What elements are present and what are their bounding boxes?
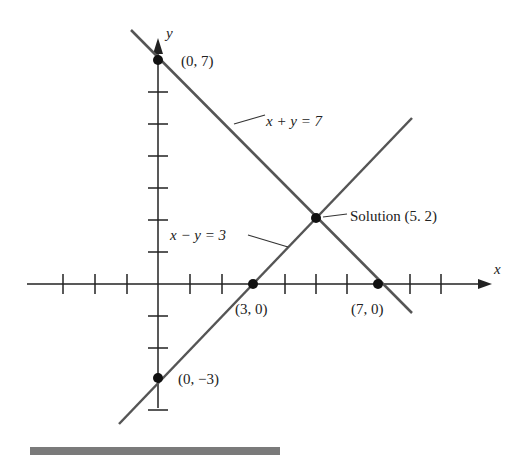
x-axis-label: x [493, 261, 501, 277]
label-solution: Solution (5. 2) [350, 208, 437, 225]
line-x-plus-y-eq-7 [131, 30, 412, 313]
y-axis-arrow-icon [153, 38, 163, 54]
scan-bar [30, 447, 280, 455]
point-0-neg3 [153, 373, 163, 383]
points [153, 55, 383, 383]
label-0-7: (0, 7) [181, 53, 214, 70]
graph: x y (0, 7) (3, 0) (7, 0) (0, −3) Solutio… [0, 0, 510, 463]
label-7-0: (7, 0) [351, 301, 384, 318]
point-7-0 [373, 279, 383, 289]
label-line2: x − y = 3 [169, 227, 226, 243]
y-axis [148, 38, 168, 410]
point-0-7 [153, 55, 163, 65]
label-0-neg3: (0, −3) [178, 371, 219, 388]
x-axis-arrow-icon [478, 279, 492, 289]
point-3-0 [248, 279, 258, 289]
point-solution [311, 213, 321, 223]
y-axis-label: y [164, 25, 173, 41]
label-3-0: (3, 0) [235, 301, 268, 318]
label-line1: x + y = 7 [265, 113, 324, 129]
